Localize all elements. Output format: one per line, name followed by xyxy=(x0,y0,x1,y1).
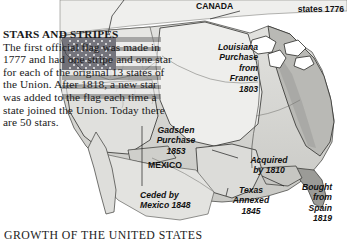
stars-and-stripes-heading: STARS AND STRIPES xyxy=(3,28,119,40)
map-label-original-states: states 1776 xyxy=(268,4,344,14)
map-label-mexico: MEXICO xyxy=(148,160,182,170)
growth-of-united-states-figure: CANADA states 1776 Louisiana Purchase fr… xyxy=(0,0,347,249)
map-label-bought-from-spain: Bought from Spain 1819 xyxy=(286,182,332,224)
stars-and-stripes-body: The first official flag was made in 1777… xyxy=(3,41,175,129)
map-label-louisiana-purchase: Louisiana Purchase from France 1803 xyxy=(196,42,258,94)
figure-caption: GROWTH OF THE UNITED STATES xyxy=(4,228,202,243)
stars-and-stripes-annotation: STARS AND STRIPES The first official fla… xyxy=(3,28,175,129)
map-label-ceded-by-mexico: Ceded by Mexico 1848 xyxy=(140,190,210,211)
map-label-texas-annexed: Texas Annexed 1845 xyxy=(228,185,274,216)
map-label-gadsden-purchase: Gadsden Purchase 1853 xyxy=(144,125,208,156)
map-label-acquired-by-1810: Acquired by 1810 xyxy=(240,155,298,176)
map-label-canada: CANADA xyxy=(196,1,233,11)
